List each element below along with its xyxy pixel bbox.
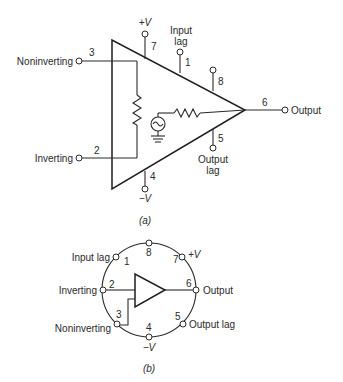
plus-v-terminal — [142, 31, 148, 37]
minus-v-label-b: −V — [143, 342, 157, 353]
input-lag-label: Input — [170, 25, 192, 36]
output-label-b: Output — [203, 285, 233, 296]
pin-1-terminal-b — [113, 254, 119, 260]
op-amp-triangle — [112, 40, 245, 189]
pin-3-terminal-b — [114, 321, 120, 327]
pin-2-number: 2 — [94, 145, 100, 156]
pin-7-terminal-b — [179, 254, 185, 260]
caption-a: (a) — [139, 215, 151, 226]
pin-6-number-b: 6 — [186, 278, 192, 289]
ground-icon — [151, 136, 165, 142]
inverting-terminal — [76, 155, 82, 161]
pin-2-terminal-b — [100, 287, 106, 293]
pin-7-number: 7 — [151, 41, 157, 52]
caption-b: (b) — [143, 363, 155, 374]
pin-4-number-b: 4 — [146, 322, 152, 333]
pin-6-number: 6 — [262, 97, 268, 108]
input-lag-label-line2: lag — [174, 36, 187, 47]
input-resistor-icon — [133, 61, 141, 158]
inverting-label: Inverting — [35, 153, 73, 164]
noninverting-label-b: Noninverting — [55, 323, 111, 334]
pin-8-number-b: 8 — [146, 247, 152, 258]
op-amp-diagram: Noninverting 3 Inverting 2 — [0, 0, 343, 382]
output-lag-terminal — [210, 145, 216, 151]
pin-5-terminal-b — [180, 321, 186, 327]
output-label: Output — [291, 105, 321, 116]
minus-v-label: −V — [139, 193, 153, 204]
plus-v-label-b: +V — [188, 249, 202, 260]
pin-5-number-b: 5 — [175, 311, 181, 322]
plus-v-label: +V — [139, 17, 153, 28]
pin-7-number-b: 7 — [173, 254, 179, 265]
inverting-label-b: Inverting — [59, 285, 97, 296]
diagram-b-pin-layout: 8 1 7 2 6 3 5 4 Input lag +V Inverting O… — [55, 240, 235, 374]
noninverting-terminal — [76, 58, 82, 64]
output-lag-label: Output — [198, 154, 228, 165]
ac-source-icon — [151, 113, 172, 136]
output-lag-label-line2: lag — [206, 165, 219, 176]
pin-8-terminal — [210, 67, 216, 73]
minus-v-terminal — [142, 186, 148, 192]
amp-symbol — [135, 274, 165, 307]
diagram-a-equivalent-circuit: Noninverting 3 Inverting 2 — [17, 17, 321, 226]
pin-3-number-b: 3 — [116, 309, 122, 320]
output-terminal — [282, 107, 288, 113]
output-lag-label-b: Output lag — [189, 319, 235, 330]
pin-4-terminal-b — [146, 334, 152, 340]
pin-1-number: 1 — [185, 57, 191, 68]
input-lag-terminal — [177, 49, 183, 55]
pin-3-number: 3 — [89, 47, 95, 58]
pin-8-number: 8 — [218, 76, 224, 87]
pin-5-number: 5 — [218, 133, 224, 144]
pin-2-number-b: 2 — [109, 279, 115, 290]
input-lag-label-b: Input lag — [72, 252, 110, 263]
pin-4-number: 4 — [150, 171, 156, 182]
pin-1-number-b: 1 — [124, 256, 130, 267]
pin-8-terminal-b — [146, 240, 152, 246]
pin-6-terminal-b — [193, 287, 199, 293]
noninverting-label: Noninverting — [17, 56, 73, 67]
